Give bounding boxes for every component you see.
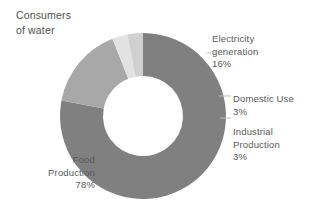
slice-label-industrial-production: Industrial Production 3% <box>233 114 280 176</box>
slice-label-domestic-text: Domestic Use <box>233 93 294 104</box>
slice-label-food-production: Food Production 78% <box>0 142 95 204</box>
slice-label-food-percent: 78% <box>0 179 95 191</box>
slice-label-electricity-text: Electricity generation <box>212 33 258 56</box>
slice-label-electricity-generation: Electricity generation 16% <box>212 21 258 83</box>
chart-title: Consumers of water <box>16 8 71 37</box>
donut-chart: Consumers of water Electricity generatio… <box>0 0 319 220</box>
slice-label-food-text: Food Production <box>48 154 95 177</box>
slice-label-electricity-percent: 16% <box>212 58 258 70</box>
slice-label-industrial-text: Industrial Production <box>233 126 280 149</box>
slice-label-industrial-percent: 3% <box>233 151 280 163</box>
